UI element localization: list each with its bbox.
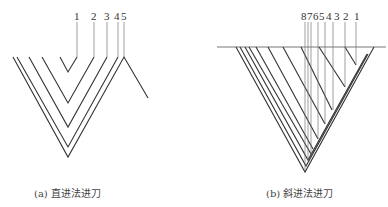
- label-a-2: 2: [91, 10, 97, 22]
- label-a-5: 5: [121, 10, 127, 22]
- pass-b-1b: [345, 47, 356, 65]
- pass-1: [60, 57, 77, 72]
- figure-a-labels: 1 2 3 4 5: [74, 10, 127, 22]
- thread-cutting-diagram: 1 2 3 4 5: [0, 0, 388, 207]
- pass-b-7: [245, 47, 367, 160]
- label-a-4: 4: [114, 10, 120, 22]
- pass-b-1a: [319, 47, 345, 87]
- pass-b-6: [249, 47, 311, 154]
- label-b-2: 2: [343, 10, 349, 22]
- pass-5: [13, 57, 148, 157]
- figure-a-straight-infeed: [13, 22, 148, 157]
- figure-b-labels: 8 7 6 5 4 3 2 1: [301, 10, 360, 22]
- caption-a: (a) 直进法进刀: [34, 185, 101, 200]
- pass-3: [29, 57, 107, 127]
- label-b-4: 4: [326, 10, 332, 22]
- label-b-1: 1: [354, 10, 360, 22]
- caption-b: (b) 斜进法进刀: [266, 185, 333, 200]
- label-b-5: 5: [319, 10, 325, 22]
- label-a-1: 1: [74, 10, 80, 22]
- label-b-3: 3: [334, 10, 340, 22]
- pass-b-2: [301, 47, 332, 110]
- pass-2: [42, 57, 94, 103]
- figure-b-flank-infeed: [217, 22, 386, 172]
- label-a-3: 3: [104, 10, 110, 22]
